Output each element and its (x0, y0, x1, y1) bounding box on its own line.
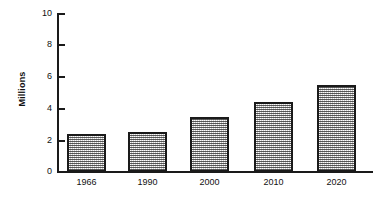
bar-1966[interactable] (67, 134, 106, 172)
x-tick-label-2020: 2020 (312, 177, 361, 187)
y-axis-line (57, 13, 59, 173)
y-tick-label-0-wrap: 0 (28, 167, 52, 176)
y-tick-label-6: 6 (28, 72, 52, 81)
x-tick-label-1966: 1966 (62, 177, 111, 187)
y-tick-2 (59, 140, 65, 142)
x-tick-label-1990: 1990 (123, 177, 172, 187)
x-tick-label-2000: 2000 (185, 177, 234, 187)
y-tick-label-6-wrap: 6 (28, 72, 52, 81)
y-tick-10 (59, 13, 65, 15)
bar-2020[interactable] (317, 85, 356, 172)
y-tick-label-4-wrap: 4 (28, 104, 52, 113)
y-tick-label-2: 2 (28, 136, 52, 145)
y-tick-6 (59, 76, 65, 78)
y-tick-label-4: 4 (28, 104, 52, 113)
y-tick-label-10-wrap: 10 (28, 9, 52, 18)
bar-2010[interactable] (254, 102, 293, 172)
y-tick-label-8-wrap: 8 (28, 40, 52, 49)
x-tick-label-2010: 2010 (249, 177, 298, 187)
y-tick-label-8: 8 (28, 40, 52, 49)
y-tick-8 (59, 44, 65, 46)
bar-chart: Millions 10 8 6 4 2 0 1966 1990 2000 201… (0, 0, 392, 203)
y-tick-label-0: 0 (28, 167, 52, 176)
bar-2000[interactable] (190, 117, 229, 172)
y-tick-0 (59, 171, 65, 173)
bar-1990[interactable] (128, 132, 167, 172)
y-tick-label-2-wrap: 2 (28, 136, 52, 145)
y-axis-title: Millions (17, 59, 27, 119)
y-tick-4 (59, 108, 65, 110)
y-tick-label-10: 10 (28, 9, 52, 18)
